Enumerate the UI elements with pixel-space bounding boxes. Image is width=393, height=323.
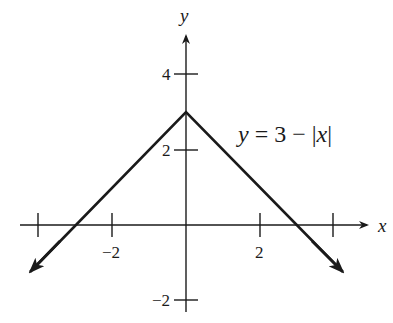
equation-x: x (316, 121, 328, 147)
y-tick-label--2: −2 (152, 291, 170, 310)
x-tick-label-2: 2 (255, 243, 264, 262)
left-arrow (30, 241, 60, 272)
x-axis-label: x (377, 215, 387, 236)
function-equation: y = 3 − |x| (236, 121, 332, 147)
y-tick-label-2: 2 (162, 141, 171, 160)
y-tick-label-4: 4 (162, 65, 171, 84)
equation-end: | (327, 121, 332, 147)
x-tick-label--2: −2 (102, 243, 120, 262)
equation-middle: = 3 − | (249, 121, 317, 147)
equation-y: y (236, 121, 249, 147)
right-arrow (312, 241, 343, 272)
y-axis-label: y (178, 5, 189, 26)
graph-canvas: y x −2 2 4 2 −2 y = 3 − |x| (0, 0, 393, 323)
